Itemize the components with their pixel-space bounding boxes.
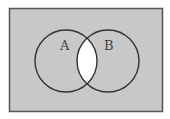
set-b-label: B [104, 38, 114, 53]
set-a-label: A [59, 38, 70, 53]
venn-diagram: A B [0, 0, 170, 119]
